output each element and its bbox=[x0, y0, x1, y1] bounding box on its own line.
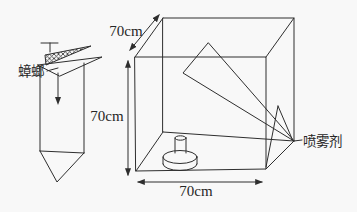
spray-label: 喷雾剂 bbox=[303, 133, 342, 149]
spray-leader-line bbox=[294, 140, 302, 141]
dim-label-depth: 70cm bbox=[109, 23, 143, 39]
dim-label-width: 70cm bbox=[179, 183, 213, 199]
cockroach-leader-line bbox=[47, 68, 58, 71]
dim-label-height: 70cm bbox=[90, 108, 124, 124]
diagram-canvas: 蟑螂 bbox=[0, 0, 357, 212]
spray-can bbox=[163, 136, 197, 171]
descent-arrow bbox=[55, 73, 61, 105]
hatched-flag bbox=[45, 46, 91, 65]
prism-body bbox=[40, 63, 84, 182]
geometry-diagram: 蟑螂 bbox=[0, 0, 357, 212]
inner-triangle-large bbox=[183, 43, 294, 141]
box-figure: 喷雾剂 70cm 70cm 70cm bbox=[90, 15, 342, 199]
cockroach-label: 蟑螂 bbox=[18, 63, 44, 79]
inner-triangle-small bbox=[266, 106, 293, 167]
spray-can-base bbox=[163, 151, 197, 171]
cockroach-marker-icon bbox=[41, 43, 58, 52]
